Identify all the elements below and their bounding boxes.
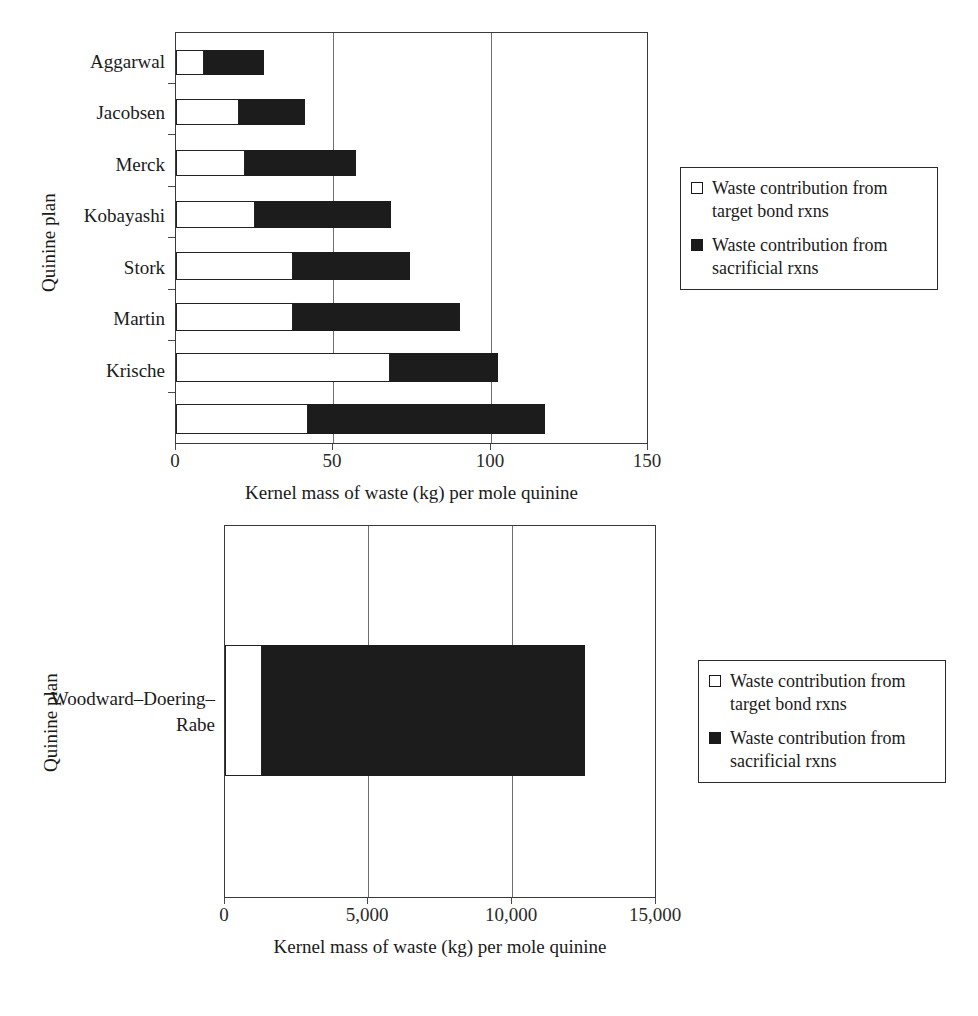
legend-item: Waste contribution from sacrificial rxns [709, 727, 935, 773]
bar-segment-sacrificial [308, 404, 545, 434]
legend-item: Waste contribution from target bond rxns [691, 177, 927, 223]
legend-label-target: Waste contribution from target bond rxns [712, 177, 888, 223]
bar-segment-sacrificial [390, 353, 498, 382]
bar-row [176, 50, 264, 75]
legend-label-sacrificial: Waste contribution from sacrificial rxns [730, 727, 906, 773]
legend-item: Waste contribution from sacrificial rxns [691, 234, 927, 280]
legend-swatch-target-icon [691, 182, 703, 194]
x-axis-title: Kernel mass of waste (kg) per mole quini… [175, 482, 648, 504]
bar-segment-target [176, 99, 239, 125]
x-tick-label-10000: 10,000 [485, 904, 537, 926]
legend-label-sacrificial-line2: sacrificial rxns [730, 751, 836, 771]
bar-segment-sacrificial [255, 201, 391, 228]
legend-label-target-line1: Waste contribution from [730, 671, 906, 691]
bar-segment-target [225, 645, 262, 776]
bar-row [176, 201, 391, 228]
bar-segment-target [176, 404, 308, 434]
legend-label-sacrificial-line1: Waste contribution from [712, 235, 888, 255]
x-axis-title: Kernel mass of waste (kg) per mole quini… [224, 936, 656, 958]
bar-segment-target [176, 150, 245, 176]
x-tick-label-0: 0 [219, 904, 229, 926]
legend-label-target-line1: Waste contribution from [712, 178, 888, 198]
legend-label-target-line2: target bond rxns [730, 694, 847, 714]
category-label-kobayashi: Kobayashi [0, 205, 165, 227]
y-axis-title: Quinine plan [38, 193, 60, 292]
y-tick [168, 186, 175, 187]
legend-label-sacrificial-line1: Waste contribution from [730, 728, 906, 748]
y-tick [168, 340, 175, 341]
legend-label-target: Waste contribution from target bond rxns [730, 670, 906, 716]
category-label-stork: Stork [0, 257, 165, 279]
x-tick-label-50: 50 [323, 450, 342, 472]
x-tick-label-150: 150 [633, 450, 662, 472]
bar-segment-target [176, 201, 255, 228]
category-label-martin: Martin [0, 308, 165, 330]
bar-row [176, 150, 356, 176]
plot-area-upper [175, 32, 648, 444]
y-tick [168, 392, 175, 393]
bar-segment-sacrificial [204, 50, 264, 75]
legend-label-target-line2: target bond rxns [712, 201, 829, 221]
x-tick-label-15000: 15,000 [629, 904, 681, 926]
bar-row [176, 404, 545, 434]
bar-segment-target [176, 252, 293, 280]
legend-swatch-sacrificial-icon [709, 732, 721, 744]
bar-segment-sacrificial [293, 252, 410, 280]
x-tick-label-5000: 5,000 [346, 904, 389, 926]
x-tick-label-100: 100 [476, 450, 505, 472]
category-label-aggarwal: Aggarwal [0, 51, 165, 73]
bar-segment-sacrificial [239, 99, 305, 125]
y-tick [168, 83, 175, 84]
bar-row [176, 252, 410, 280]
bar-segment-sacrificial [262, 645, 585, 776]
y-axis-title: Quinine plan [40, 673, 62, 772]
y-tick [168, 134, 175, 135]
bar-row [176, 99, 305, 125]
bar-row [176, 353, 498, 382]
category-label-krische: Krische [0, 360, 165, 382]
y-tick [168, 237, 175, 238]
figure-root: { "chart_data": [ { "id": "quinine-plans… [0, 0, 978, 1016]
category-label-jacobsen: Jacobsen [0, 102, 165, 124]
bar-segment-sacrificial [293, 303, 460, 331]
x-tick-label-0: 0 [170, 450, 180, 472]
legend-label-sacrificial-line2: sacrificial rxns [712, 258, 818, 278]
category-label-merck: Merck [0, 154, 165, 176]
bar-row [225, 645, 585, 776]
legend-upper: Waste contribution from target bond rxns… [680, 167, 938, 290]
bar-segment-target [176, 303, 293, 331]
bar-segment-sacrificial [245, 150, 356, 176]
y-tick [168, 289, 175, 290]
legend-item: Waste contribution from target bond rxns [709, 670, 935, 716]
legend-lower: Waste contribution from target bond rxns… [698, 660, 946, 783]
bar-segment-target [176, 353, 390, 382]
bar-row [176, 303, 460, 331]
legend-swatch-target-icon [709, 675, 721, 687]
legend-swatch-sacrificial-icon [691, 239, 703, 251]
bar-segment-target [176, 50, 204, 75]
legend-label-sacrificial: Waste contribution from sacrificial rxns [712, 234, 888, 280]
